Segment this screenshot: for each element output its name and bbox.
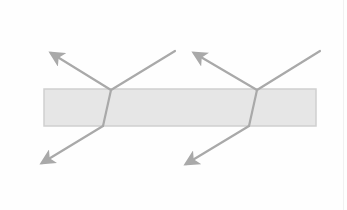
emergent-ray [186, 126, 249, 164]
emergent-ray [42, 126, 103, 163]
glass-slab [44, 89, 316, 126]
reflected-ray [194, 53, 257, 90]
diagram-canvas [0, 0, 347, 210]
incident-ray [257, 51, 320, 90]
reflected-ray [51, 53, 111, 90]
incident-ray [111, 51, 175, 90]
refraction-diagram [0, 0, 347, 210]
